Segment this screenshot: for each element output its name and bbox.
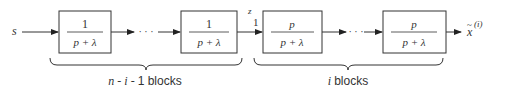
block-3-denominator: p + λ — [279, 36, 303, 48]
intermediate-label-sub: 1 — [253, 16, 259, 28]
output-label-superscript: (i) — [474, 19, 483, 29]
block-diagram: s 1 p + λ · · · 1 p + λ z 1 p p + λ · · … — [0, 0, 511, 91]
block-2: 1 p + λ — [181, 11, 237, 53]
block-2-numerator: 1 — [206, 17, 212, 31]
brace-group-2 — [254, 58, 443, 70]
ellipsis-1: · · · — [139, 26, 154, 37]
block-3-numerator: p — [288, 18, 295, 30]
block-4: p p + λ — [383, 11, 446, 53]
group-2-label: i blocks — [328, 74, 368, 88]
group-1-label: n - i - 1 blocks — [108, 74, 181, 88]
block-4-denominator: p + λ — [401, 36, 425, 48]
input-label-s: s — [12, 24, 17, 38]
block-4-numerator: p — [410, 18, 417, 30]
block-1-denominator: p + λ — [72, 36, 96, 48]
intermediate-label-z: z — [247, 6, 252, 16]
output-label-x: x — [466, 25, 473, 39]
block-1: 1 p + λ — [59, 11, 111, 53]
block-1-numerator: 1 — [82, 17, 88, 31]
block-2-denominator: p + λ — [196, 36, 220, 48]
brace-group-1 — [50, 58, 242, 70]
ellipsis-2: · · · — [349, 26, 364, 37]
block-3: p p + λ — [263, 11, 322, 53]
